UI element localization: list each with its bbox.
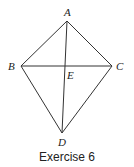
segment-ab [21,21,67,66]
label-d: D [58,137,66,148]
label-a: A [64,7,71,18]
segment-ac [67,21,112,66]
figure-caption: Exercise 6 [0,150,134,164]
segment-bd [21,66,62,133]
label-b: B [8,61,15,72]
label-c: C [116,61,123,72]
figure: A B C E D Exercise 6 [0,0,134,167]
label-e: E [67,70,74,81]
kite-diagram [0,0,134,167]
